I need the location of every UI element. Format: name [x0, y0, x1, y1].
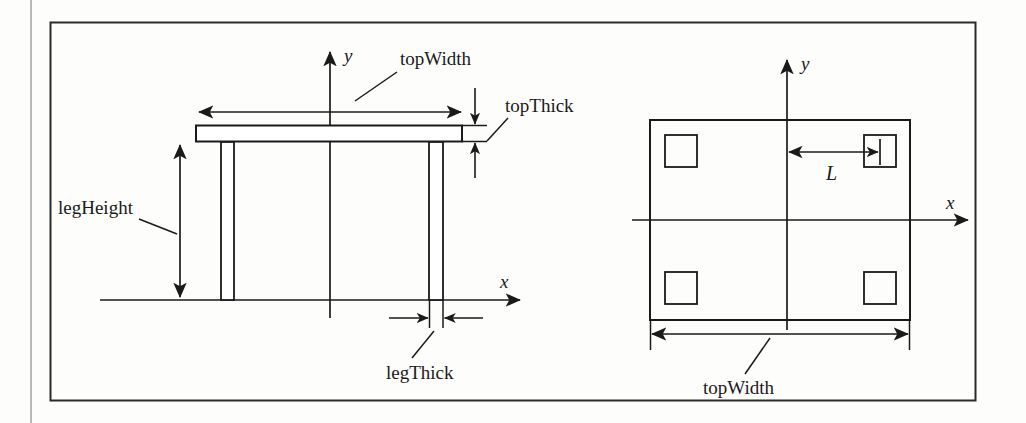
side-view-axes [100, 52, 520, 318]
leg-offset-label: L [825, 162, 837, 184]
tabletop-slab [196, 126, 462, 142]
side-view-x-axis-label: x [499, 271, 509, 292]
top-width-plan-leader-line [745, 338, 770, 374]
leg-thick-label: legThick [386, 362, 454, 383]
top-thick-leader-line [487, 118, 508, 141]
leg-height-label: legHeight [58, 197, 134, 218]
dimension-leg-height [139, 145, 180, 297]
table-leg-right [429, 142, 443, 300]
top-view-axes [632, 60, 968, 330]
leg-plan-top-left [665, 135, 697, 167]
leg-thick-leader-line [412, 331, 434, 358]
figure-root: topWidth topThick legHeight [0, 0, 1026, 423]
figure-border [51, 23, 976, 401]
top-width-leader-line [355, 72, 397, 101]
top-plan-view: L topWidth y x [632, 53, 968, 398]
top-width-label: topWidth [400, 48, 472, 69]
dimension-leg-thick [389, 300, 483, 358]
leg-plan-bottom-right [864, 272, 896, 304]
table-dimension-diagram: topWidth topThick legHeight [0, 0, 1026, 423]
leg-plan-bottom-left [665, 272, 697, 304]
top-thick-label: topThick [505, 95, 574, 116]
leg-height-leader-line [139, 219, 177, 234]
side-view-y-axis-label: y [342, 45, 353, 66]
top-view-y-axis-label: y [799, 53, 810, 74]
top-width-plan-label: topWidth [703, 377, 775, 398]
table-leg-left [221, 142, 234, 300]
side-elevation-view: topWidth topThick legHeight [58, 45, 574, 383]
dimension-top-thick [462, 88, 508, 178]
top-view-x-axis-label: x [945, 192, 955, 213]
dimension-top-width-plan [651, 320, 910, 374]
